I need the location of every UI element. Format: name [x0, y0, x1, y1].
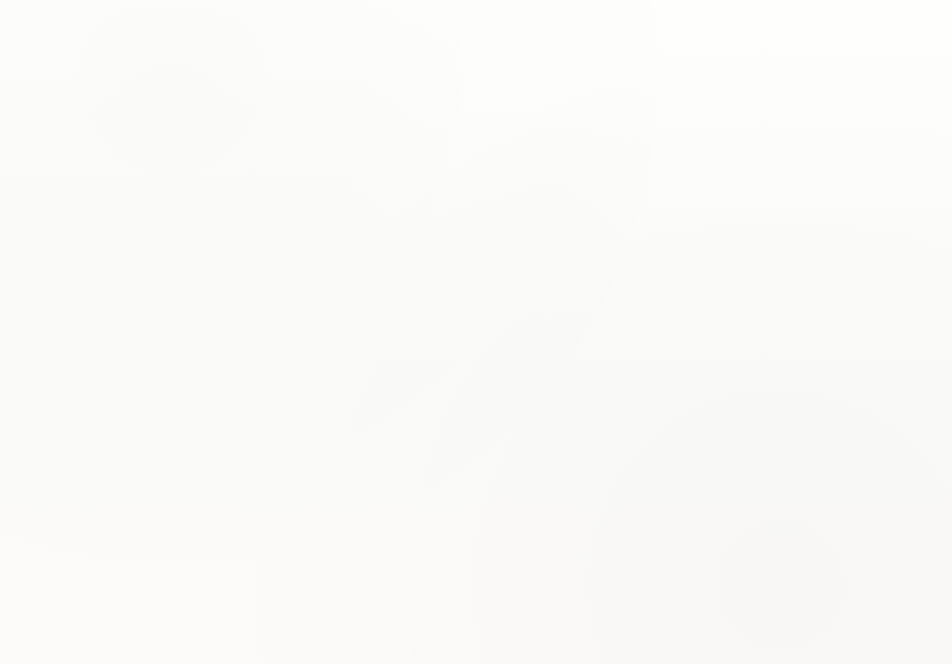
x-tick-label: -5_-4 — [379, 525, 403, 555]
legend-item: DurationBySample — [261, 616, 417, 630]
y2-tick-label: 10% — [860, 111, 887, 126]
x-tick-label: -4_-5 — [175, 525, 199, 555]
y2-tick-label: 8% — [860, 191, 880, 206]
legend-item: Correction Tree Difference — [463, 616, 664, 630]
x-tick-label: -3_-4 — [321, 525, 345, 555]
series-group — [110, 82, 838, 519]
y2-tick-label: 6% — [860, 272, 880, 287]
x-tick-label: -5_-3 — [525, 526, 549, 555]
y2-axis-tick-labels: 0%2%4%6%8%10%12% — [860, 31, 887, 527]
y-tick-label: 0,2 — [69, 432, 88, 447]
line-chart: 00,20,40,60,811,2 0%2%4%6%8%10%12% -∞_-∞… — [0, 0, 952, 664]
y-tick-label: 0,4 — [69, 352, 88, 367]
x-tick-label: -2_-4 — [292, 525, 316, 555]
x-axis-tick-labels: -∞_-∞-2_-5-3_-5-4_-5-5_-5-1_-5-1_-4-2_-4… — [86, 525, 840, 558]
x-tick-label: -1_-3 — [408, 526, 432, 555]
x-tick-label: -3_-3 — [466, 526, 490, 555]
x-tick-label: -1_-4 — [263, 525, 287, 555]
x-tick-label: -5_-1 — [816, 525, 840, 555]
y2-axis-tickmarks — [838, 38, 852, 519]
y2-axis-title: % Difference — [908, 239, 923, 318]
x-axis-title: Correction Window — [414, 571, 534, 586]
x-tick-label: -4_-1 — [787, 525, 811, 555]
y-axis-title: Seconds by Sample — [22, 217, 37, 340]
x-tick-label: -2_-3 — [437, 526, 461, 555]
y2-tick-label: 2% — [860, 432, 880, 447]
series-line-1 — [110, 82, 838, 479]
series-line-2 — [110, 103, 838, 519]
x-tick-label: -∞_-∞ — [86, 526, 112, 558]
x-tick-label: -4_-2 — [641, 526, 665, 555]
y-axis-tick-labels: 00,20,40,60,811,2 — [69, 31, 88, 527]
y-tick-label: 1,2 — [69, 31, 88, 46]
y-axis-tickmarks — [96, 38, 110, 519]
legend-label: Correction Tree Difference — [507, 616, 664, 630]
x-tick-label: -3_-5 — [146, 525, 170, 555]
x-tick-label: -1_-1 — [699, 525, 723, 555]
x-tick-label: -1_-2 — [554, 526, 578, 555]
x-tick-label: -2_-2 — [583, 526, 607, 555]
y2-tick-label: 12% — [860, 31, 887, 46]
chart-container: 00,20,40,60,811,2 0%2%4%6%8%10%12% -∞_-∞… — [0, 0, 952, 664]
legend-label: DurationBySample — [305, 616, 417, 630]
x-tick-label: -2_-1 — [729, 525, 753, 555]
y-tick-label: 0,6 — [69, 272, 88, 287]
y2-tick-label: 4% — [860, 352, 880, 367]
y-tick-label: 0,8 — [69, 191, 88, 206]
x-tick-label: -3_-2 — [612, 526, 636, 555]
x-tick-label: -2_-5 — [117, 525, 141, 555]
y-tick-label: 0 — [80, 512, 88, 527]
x-tick-label: -1_-5 — [234, 525, 258, 555]
x-tick-label: -5_-5 — [204, 525, 228, 555]
x-tick-label: -5_-2 — [670, 526, 694, 555]
x-tick-label: -4_-4 — [350, 525, 374, 555]
chart-legend: DurationBySampleCorrection Tree Differen… — [261, 616, 664, 630]
x-tick-label: -4_-3 — [496, 526, 520, 555]
y-tick-label: 1 — [80, 111, 88, 126]
x-tick-label: -3_-1 — [758, 525, 782, 555]
y2-tick-label: 0% — [860, 512, 880, 527]
